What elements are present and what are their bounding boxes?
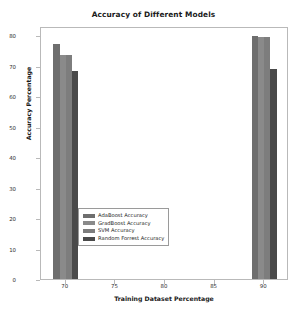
x-tick-mark: [114, 280, 115, 284]
x-tick-mark: [214, 280, 215, 284]
legend-label: GradBoost Accuracy: [98, 221, 151, 226]
y-tick-label: 60: [0, 94, 16, 100]
bar: [72, 71, 78, 279]
y-tick-mark: [36, 97, 40, 98]
y-tick-label: 20: [0, 216, 16, 222]
legend-item: AdaBoost Accuracy: [83, 212, 164, 220]
figure: Accuracy of Different Models 01020304050…: [0, 0, 307, 318]
legend-item: Random Forrest Accuracy: [83, 235, 164, 243]
y-tick-mark: [36, 158, 40, 159]
x-axis-label: Training Dataset Percentage: [40, 295, 288, 302]
y-tick-label: 10: [0, 247, 16, 253]
y-tick-mark: [36, 189, 40, 190]
y-axis-label: Accuracy Percentage: [25, 24, 32, 184]
legend-label: AdaBoost Accuracy: [98, 213, 148, 218]
y-tick-mark: [36, 67, 40, 68]
chart-title: Accuracy of Different Models: [0, 10, 307, 19]
y-tick-label: 70: [0, 64, 16, 70]
y-tick-label: 50: [0, 125, 16, 131]
x-tick-mark: [164, 280, 165, 284]
x-tick-mark: [65, 280, 66, 284]
y-tick-label: 80: [0, 33, 16, 39]
y-tick-mark: [36, 128, 40, 129]
y-tick-label: 40: [0, 155, 16, 161]
y-tick-mark: [36, 250, 40, 251]
legend: AdaBoost AccuracyGradBoost AccuracySVM A…: [78, 208, 169, 246]
y-tick-mark: [36, 219, 40, 220]
legend-item: GradBoost Accuracy: [83, 220, 164, 228]
legend-swatch: [83, 221, 95, 225]
legend-swatch: [83, 214, 95, 218]
x-tick-mark: [263, 280, 264, 284]
legend-item: SVM Accuracy: [83, 227, 164, 235]
bar: [270, 69, 276, 279]
legend-label: Random Forrest Accuracy: [98, 236, 164, 241]
y-tick-mark: [36, 36, 40, 37]
y-tick-label: 0: [0, 277, 16, 283]
legend-swatch: [83, 229, 95, 233]
y-tick-label: 30: [0, 186, 16, 192]
y-tick-mark: [36, 280, 40, 281]
legend-label: SVM Accuracy: [98, 228, 135, 233]
legend-swatch: [83, 237, 95, 241]
